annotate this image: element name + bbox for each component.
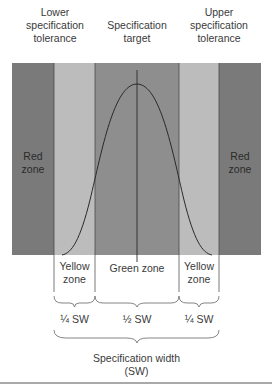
label-line: Specification [95,19,179,32]
yellow-zone-right [179,63,219,255]
label-line: tolerance [176,32,262,45]
brace-right [179,296,219,307]
label-line: Yellow [179,260,219,273]
target-label: Specification target [95,19,179,45]
label-line: Upper [176,6,262,19]
label-line: specification [12,19,98,32]
lower-tolerance-label: Lower specification tolerance [12,6,98,45]
brace-left [54,296,95,307]
brace-total [54,330,219,343]
brace-center [95,296,179,307]
label-line: (SW) [54,365,219,378]
label-line: specification [176,19,262,32]
fraction-left-label: ¼ SW [54,313,95,326]
upper-tolerance-label: Upper specification tolerance [176,6,262,45]
yellow-zone-left-label: Yellow zone [54,260,95,286]
green-zone-label: Green zone [95,262,179,275]
label-line: Yellow [54,260,95,273]
yellow-zone-left [54,63,95,255]
label-line: target [95,32,179,45]
label-line: zone [12,163,54,176]
specification-width-label: Specification width (SW) [54,352,219,378]
red-zone-left-label: Red zone [12,150,54,176]
red-zone-right-label: Red zone [219,150,261,176]
tolerance-zone-diagram [0,0,272,388]
label-line: Specification width [54,352,219,365]
label-line: Red [12,150,54,163]
label-line: zone [54,273,95,286]
label-line: Lower [12,6,98,19]
fraction-center-label: ½ SW [95,313,179,326]
yellow-zone-right-label: Yellow zone [179,260,219,286]
label-line: tolerance [12,32,98,45]
label-line: zone [179,273,219,286]
label-line: Green zone [95,262,179,275]
fraction-right-label: ¼ SW [179,313,219,326]
label-line: zone [219,163,261,176]
label-line: Red [219,150,261,163]
